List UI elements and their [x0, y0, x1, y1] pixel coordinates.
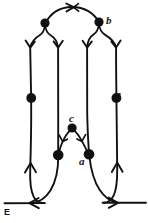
- strand-3-group: [87, 48, 117, 203]
- vertices-group: [26, 17, 121, 160]
- vertex-top-right-b: [94, 17, 103, 26]
- vertex-label-c: c: [69, 113, 74, 124]
- vertex-low-left: [53, 150, 64, 161]
- top-arc-group: [46, 4, 100, 24]
- baseline-group: [5, 198, 147, 209]
- vertex-label-b: b: [106, 15, 112, 26]
- vertex-label-d: d: [115, 91, 121, 102]
- strand-4-path: [104, 48, 118, 203]
- strand-2-group: [31, 48, 58, 204]
- top-arc-path: [46, 7, 100, 23]
- baseline-label-E: E: [4, 208, 10, 217]
- vertex-mid-left: [26, 93, 36, 103]
- vertex-top-left: [40, 18, 49, 27]
- strand-4-group: [104, 48, 123, 203]
- vertex-low-right-a: [84, 149, 95, 160]
- strand-1-path: [30, 48, 44, 204]
- strand-2-tail-path: [31, 156, 58, 204]
- diagram-vector-graphic: [0, 0, 148, 223]
- strand-1-group: [25, 48, 44, 204]
- central-arc-group: [59, 130, 89, 154]
- diagram-canvas: b d c a E: [0, 0, 148, 223]
- branch-left-group: [26, 25, 63, 48]
- branch-right-group: [83, 24, 121, 48]
- strand-3-path: [87, 48, 89, 154]
- vertex-label-a: a: [79, 156, 85, 167]
- vertex-apex-c: [68, 123, 77, 132]
